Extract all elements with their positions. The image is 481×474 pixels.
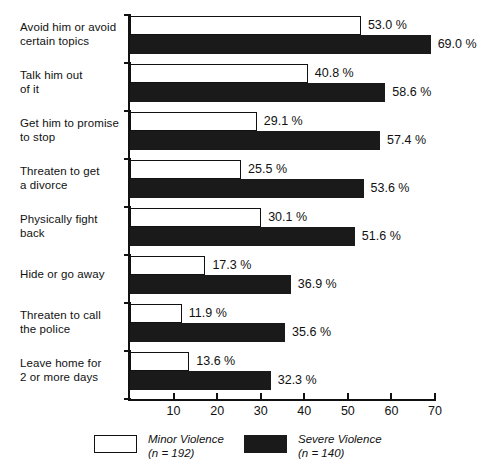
bar-severe-violence bbox=[130, 179, 364, 198]
legend-label-minor-violence: Minor Violence(n = 192) bbox=[148, 432, 224, 460]
category-label: Threaten to call the police bbox=[20, 309, 128, 336]
x-axis-tick bbox=[303, 393, 305, 401]
category-label: Talk him out of it bbox=[20, 69, 128, 96]
chart-legend: Minor Violence(n = 192) Severe Violence(… bbox=[0, 432, 481, 474]
bar-value-label: 58.6 % bbox=[392, 83, 431, 102]
bar-minor-violence bbox=[130, 256, 205, 275]
legend-swatch-minor-violence bbox=[94, 435, 137, 453]
bar-minor-violence bbox=[130, 160, 241, 179]
x-axis-tick bbox=[260, 393, 262, 401]
plot-area: Avoid him or avoid certain topicsTalk hi… bbox=[0, 0, 481, 412]
bar-minor-violence bbox=[130, 112, 257, 131]
x-axis-tick-label: 30 bbox=[254, 404, 268, 418]
category-label: Leave home for 2 or more days bbox=[20, 357, 128, 384]
legend-swatch-severe-violence bbox=[244, 435, 287, 453]
x-axis-tick bbox=[173, 393, 175, 401]
bar-severe-violence bbox=[130, 275, 291, 294]
x-axis-tick-label: 50 bbox=[341, 404, 355, 418]
x-axis-tick bbox=[434, 393, 436, 401]
bar-value-label: 11.9 % bbox=[189, 304, 227, 323]
bar-severe-violence bbox=[130, 35, 431, 54]
bar-value-label: 40.8 % bbox=[315, 64, 354, 83]
bar-value-label: 53.6 % bbox=[371, 179, 410, 198]
bar-severe-violence bbox=[130, 371, 271, 390]
bar-value-label: 32.3 % bbox=[278, 371, 317, 390]
x-axis-tick-label: 70 bbox=[428, 404, 442, 418]
bar-value-label: 36.9 % bbox=[298, 275, 337, 294]
category-label: Avoid him or avoid certain topics bbox=[20, 21, 128, 48]
bar-value-label: 29.1 % bbox=[264, 112, 303, 131]
bar-value-label: 17.3 % bbox=[212, 256, 251, 275]
bar-value-label: 25.5 % bbox=[248, 160, 287, 179]
x-axis-tick bbox=[216, 393, 218, 401]
x-axis-tick-label: 20 bbox=[210, 404, 224, 418]
bar-value-label: 53.0 % bbox=[368, 16, 407, 35]
category-label: Physically fight back bbox=[20, 213, 128, 240]
bar-minor-violence bbox=[130, 304, 182, 323]
legend-label-severe-violence: Severe Violence(n = 140) bbox=[298, 432, 382, 460]
bar-minor-violence bbox=[130, 64, 308, 83]
bar-value-label: 13.6 % bbox=[196, 352, 235, 371]
bar-severe-violence bbox=[130, 227, 355, 246]
x-axis-tick bbox=[390, 393, 392, 401]
x-axis-tick-label: 10 bbox=[167, 404, 181, 418]
bar-value-label: 30.1 % bbox=[268, 208, 307, 227]
bar-minor-violence bbox=[130, 16, 361, 35]
bar-minor-violence bbox=[130, 208, 261, 227]
category-label: Threaten to get a divorce bbox=[20, 165, 128, 192]
x-axis-tick-label: 40 bbox=[297, 404, 311, 418]
bar-value-label: 51.6 % bbox=[362, 227, 401, 246]
legend-item-severe-violence: Severe Violence(n = 140) bbox=[244, 432, 382, 460]
bar-value-label: 69.0 % bbox=[438, 35, 477, 54]
bar-value-label: 57.4 % bbox=[387, 131, 426, 150]
bar-severe-violence bbox=[130, 131, 380, 150]
x-axis-tick-label: 60 bbox=[384, 404, 398, 418]
bar-chart: Avoid him or avoid certain topicsTalk hi… bbox=[0, 0, 481, 474]
x-axis-tick bbox=[347, 393, 349, 401]
category-label: Hide or go away bbox=[20, 268, 128, 282]
bar-value-label: 35.6 % bbox=[292, 323, 331, 342]
bar-severe-violence bbox=[130, 83, 385, 102]
bar-minor-violence bbox=[130, 352, 189, 371]
bar-severe-violence bbox=[130, 323, 285, 342]
legend-item-minor-violence: Minor Violence(n = 192) bbox=[94, 432, 224, 460]
category-label: Get him to promise to stop bbox=[20, 117, 128, 144]
